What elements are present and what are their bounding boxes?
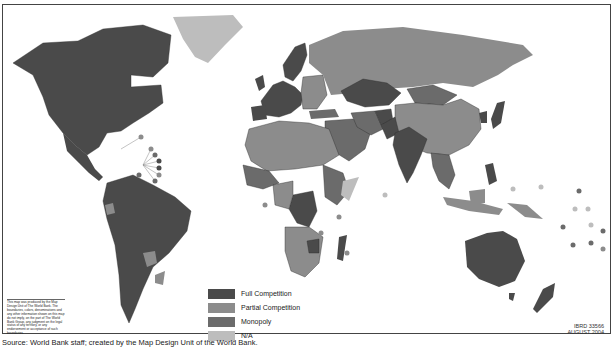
disclaimer-text: This map was produced by the Map Design …	[7, 299, 65, 336]
region-borneo	[469, 189, 485, 205]
region-iberia	[251, 105, 267, 121]
legend-label: Partial Competition	[241, 304, 300, 311]
caribbean-dots	[137, 135, 162, 184]
map-legend: Full Competition Partial Competition Mon…	[208, 287, 300, 343]
region-mongolia	[407, 85, 457, 105]
legend-label: Full Competition	[241, 290, 292, 297]
region-australia	[465, 231, 525, 287]
region-zimbabwe	[307, 239, 319, 253]
region-eastern-europe	[301, 75, 327, 109]
map-date: AUGUST 2004	[567, 329, 604, 335]
region-south-america	[103, 175, 191, 323]
legend-item-partial-competition: Partial Competition	[208, 301, 300, 314]
region-madagascar	[337, 235, 347, 261]
legend-swatch-monopoly	[208, 317, 235, 327]
region-japan	[491, 101, 505, 129]
legend-label: Monopoly	[241, 318, 271, 325]
region-greenland	[173, 15, 243, 63]
region-drc	[289, 191, 317, 227]
region-papua	[507, 203, 543, 219]
region-india	[393, 127, 427, 183]
legend-item-full-competition: Full Competition	[208, 287, 300, 300]
map-frame: This map was produced by the Map Design …	[2, 4, 611, 334]
legend-swatch-partial	[208, 303, 235, 313]
region-uk	[255, 75, 265, 91]
region-philippines	[485, 163, 497, 185]
region-uruguay	[155, 271, 165, 285]
region-tasmania	[509, 293, 515, 301]
region-western-europe	[261, 81, 303, 117]
region-north-america	[13, 25, 171, 155]
legend-swatch-full	[208, 289, 235, 299]
region-turkey	[309, 109, 339, 119]
region-southeast-asia	[431, 153, 455, 189]
region-central-africa	[273, 181, 293, 209]
source-caption: Source: World Bank staff; created by the…	[2, 338, 258, 347]
region-russia	[309, 27, 533, 95]
world-map	[3, 5, 612, 335]
region-north-africa	[245, 121, 339, 171]
legend-item-monopoly: Monopoly	[208, 315, 300, 328]
region-scandinavia	[283, 43, 307, 81]
map-id-label: IBRD 33566 AUGUST 2004	[567, 323, 604, 335]
region-new-zealand	[533, 283, 555, 313]
